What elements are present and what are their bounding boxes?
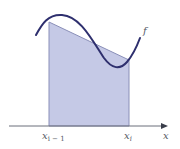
axis-label-x: x [163, 130, 169, 141]
trapezoid-rule-diagram: f xi − 1 xi x [0, 0, 180, 149]
right-endpoint-label: xi [124, 130, 132, 143]
left-endpoint-label: xi − 1 [42, 130, 65, 143]
x-axis-arrow-icon [161, 123, 168, 129]
curve-label-f: f [142, 25, 149, 36]
trapezoid-region [49, 22, 129, 126]
